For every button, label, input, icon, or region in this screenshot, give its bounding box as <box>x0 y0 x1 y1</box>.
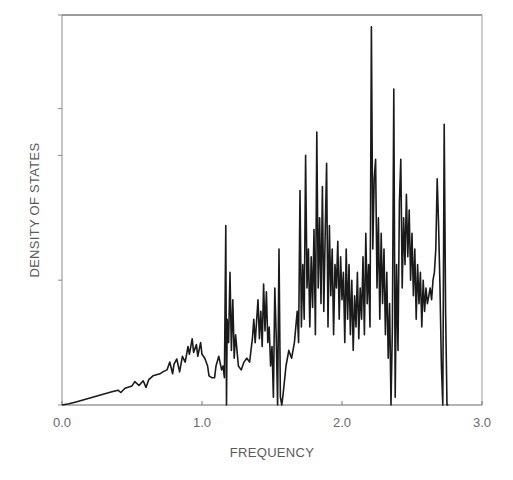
x-tick-label: 2.0 <box>333 415 351 430</box>
x-tick-label: 3.0 <box>473 415 491 430</box>
y-axis-label: DENSITY OF STATES <box>27 142 42 277</box>
density-of-states-chart: 0.01.02.03.0 FREQUENCY DENSITY OF STATES <box>0 0 513 480</box>
x-tick-label: 1.0 <box>193 415 211 430</box>
data-line-density-of-states <box>62 27 448 405</box>
x-axis-label: FREQUENCY <box>230 445 314 460</box>
x-tick-label: 0.0 <box>53 415 71 430</box>
y-axis-ticks <box>58 15 62 405</box>
